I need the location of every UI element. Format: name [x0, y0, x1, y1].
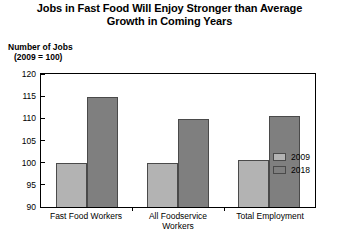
legend-swatch-2018 — [273, 166, 286, 174]
legend-item-2018: 2018 — [273, 165, 310, 175]
chart-legend: 2009 2018 — [273, 152, 310, 175]
y-tick-90: 90 — [27, 202, 41, 212]
x-label-line: All Foodservice — [132, 211, 224, 221]
y-tick-105: 105 — [22, 136, 41, 146]
y-tick-120: 120 — [22, 69, 41, 79]
plot-area: 120 115 110 105 100 95 90 — [40, 73, 316, 208]
bar-group-fast-food-workers — [41, 74, 132, 207]
y-tick-100: 100 — [22, 158, 41, 168]
y-tick-95: 95 — [27, 180, 41, 190]
x-label-all-foodservice-workers: All Foodservice Workers — [132, 211, 224, 231]
legend-label-2018: 2018 — [291, 165, 310, 175]
bar-groups — [41, 74, 315, 207]
x-label-fast-food-workers: Fast Food Workers — [40, 211, 132, 231]
y-axis-label-line-2: (2009 = 100) — [8, 52, 73, 62]
y-axis-label-line-1: Number of Jobs — [8, 42, 73, 52]
x-axis-labels: Fast Food Workers All Foodservice Worker… — [40, 211, 316, 231]
x-label-line: Fast Food Workers — [40, 211, 132, 221]
bar-2018-fast-food-workers — [87, 97, 118, 207]
x-label-line: Total Employment — [224, 211, 316, 221]
y-axis-label: Number of Jobs (2009 = 100) — [8, 42, 73, 62]
bar-2009-fast-food-workers — [56, 163, 87, 207]
chart-title-line-1: Jobs in Fast Food Will Enjoy Stronger th… — [0, 2, 339, 15]
legend-swatch-2009 — [273, 153, 286, 161]
y-tick-115: 115 — [22, 91, 41, 101]
chart-container: Jobs in Fast Food Will Enjoy Stronger th… — [0, 0, 339, 245]
legend-item-2009: 2009 — [273, 152, 310, 162]
chart-title-line-2: Growth in Coming Years — [0, 15, 339, 28]
x-label-line: Workers — [132, 221, 224, 231]
x-label-total-employment: Total Employment — [224, 211, 316, 231]
chart-title: Jobs in Fast Food Will Enjoy Stronger th… — [0, 2, 339, 28]
bar-2009-all-foodservice-workers — [147, 163, 178, 207]
y-tick-110: 110 — [22, 113, 41, 123]
bar-group-all-foodservice-workers — [132, 74, 223, 207]
bar-2009-total-employment — [238, 160, 269, 207]
legend-label-2009: 2009 — [291, 152, 310, 162]
bar-group-total-employment — [224, 74, 315, 207]
bar-2018-all-foodservice-workers — [178, 119, 209, 207]
